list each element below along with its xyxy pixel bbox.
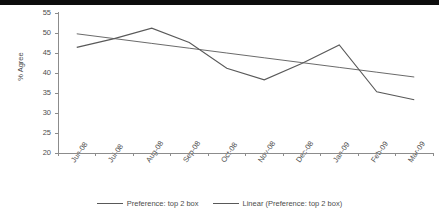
- series-group: [77, 28, 415, 100]
- series-line-path: [77, 28, 415, 100]
- axes-group: [55, 12, 433, 156]
- plot-area: [0, 0, 439, 216]
- legend-item[interactable]: Preference: top 2 box: [97, 199, 199, 208]
- chart-container: % Agree 5550454035302520 Jun-08Jul-08Aug…: [0, 0, 439, 216]
- chart-legend: Preference: top 2 boxLinear (Preference:…: [0, 196, 439, 210]
- legend-line-icon: [97, 203, 123, 204]
- legend-item[interactable]: Linear (Preference: top 2 box): [213, 199, 343, 208]
- legend-label: Linear (Preference: top 2 box): [243, 199, 343, 208]
- legend-label: Preference: top 2 box: [127, 199, 199, 208]
- legend-line-icon: [213, 203, 239, 204]
- trendline-path: [77, 34, 415, 77]
